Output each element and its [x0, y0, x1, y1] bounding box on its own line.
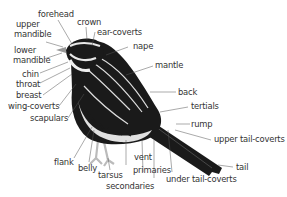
label-throat: throat: [16, 80, 40, 89]
label-upper-tail-coverts: upper tail-coverts: [214, 135, 285, 144]
label-wing-coverts: wing-coverts: [8, 102, 59, 111]
label-lower-mandible-line2: mandible: [13, 56, 50, 65]
bird-topography-diagram: forehead crown upper mandible ear-covert…: [0, 0, 287, 197]
label-mantle: mantle: [155, 61, 183, 70]
label-tertials: tertials: [191, 102, 219, 111]
label-under-tail-coverts: under tail-coverts: [166, 175, 237, 184]
label-scapulars: scapulars: [30, 114, 68, 123]
label-upper-mandible-line2: mandible: [14, 30, 51, 39]
label-back: back: [178, 88, 197, 97]
label-forehead: forehead: [38, 10, 74, 19]
label-breast: breast: [16, 91, 41, 100]
label-flank: flank: [54, 158, 74, 167]
label-chin: chin: [22, 70, 39, 79]
label-lower-mandible-line1: lower: [14, 46, 36, 55]
label-rump: rump: [191, 120, 212, 129]
label-crown: crown: [77, 18, 101, 27]
label-upper-mandible-line1: upper: [16, 20, 40, 29]
label-tail: tail: [236, 163, 248, 172]
label-secondaries: secondaries: [106, 182, 154, 191]
label-belly: belly: [78, 164, 97, 173]
label-vent: vent: [134, 153, 152, 162]
label-tarsus: tarsus: [98, 171, 123, 180]
label-nape: nape: [133, 42, 153, 51]
label-ear-coverts: ear-coverts: [97, 28, 142, 37]
beak-shape: [56, 47, 66, 53]
